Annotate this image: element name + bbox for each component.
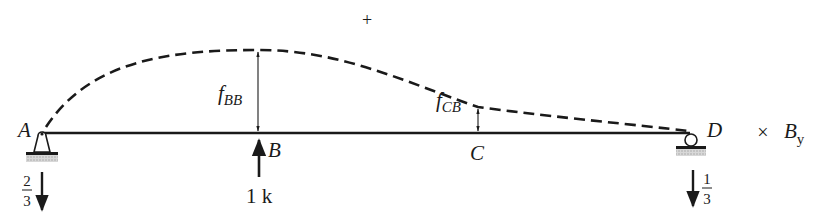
svg-text:1: 1 [703, 171, 711, 187]
multiply-symbol: × [757, 121, 768, 143]
beam-deflection-diagram: + fBB fCB A D B C 1 k 2 3 1 [0, 0, 820, 222]
f-bb-label: fBB [218, 81, 242, 108]
positive-sign-label: + [362, 10, 372, 30]
point-a-label: A [16, 118, 31, 142]
point-c-label: C [470, 141, 485, 165]
svg-text:3: 3 [703, 191, 711, 207]
by-multiplier-label: By [784, 119, 805, 147]
svg-text:3: 3 [23, 193, 31, 209]
point-d-label: D [706, 118, 722, 142]
roller-support-d [676, 134, 706, 156]
unit-load-label: 1 k [246, 184, 273, 208]
deflected-shape-curve [46, 50, 688, 131]
reaction-a-fraction: 2 3 [22, 173, 32, 209]
f-cb-label: fCB [436, 88, 461, 115]
reaction-d-fraction: 1 3 [702, 171, 712, 207]
svg-text:2: 2 [23, 173, 31, 189]
point-b-label: B [268, 138, 281, 162]
